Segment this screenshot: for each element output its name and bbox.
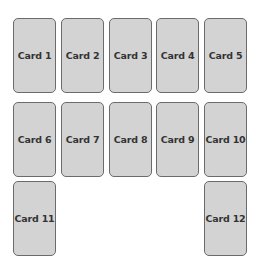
card-label: Card 11 [15,213,55,224]
card-label: Card 6 [18,134,52,145]
card-7[interactable]: Card 7 [61,102,104,177]
card-label: Card 9 [161,134,195,145]
card-label: Card 8 [114,134,148,145]
card-label: Card 4 [161,50,195,61]
card-label: Card 2 [66,50,100,61]
card-11[interactable]: Card 11 [13,181,56,256]
card-label: Card 3 [114,50,148,61]
card-8[interactable]: Card 8 [109,102,152,177]
card-label: Card 12 [206,213,246,224]
card-label: Card 10 [206,134,246,145]
card-6[interactable]: Card 6 [13,102,56,177]
card-9[interactable]: Card 9 [156,102,199,177]
card-12[interactable]: Card 12 [204,181,247,256]
card-4[interactable]: Card 4 [156,18,199,93]
card-label: Card 7 [66,134,100,145]
card-10[interactable]: Card 10 [204,102,247,177]
card-label: Card 1 [18,50,52,61]
card-1[interactable]: Card 1 [13,18,56,93]
card-5[interactable]: Card 5 [204,18,247,93]
card-3[interactable]: Card 3 [109,18,152,93]
card-2[interactable]: Card 2 [61,18,104,93]
card-label: Card 5 [209,50,243,61]
